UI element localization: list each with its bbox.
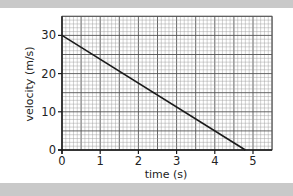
y-tick-label: 20 bbox=[41, 67, 56, 81]
x-tick-label: 1 bbox=[97, 154, 104, 168]
x-tick-label: 4 bbox=[211, 154, 218, 168]
x-tick-label: 2 bbox=[135, 154, 142, 168]
y-axis-ticks: 0102030 bbox=[41, 28, 62, 157]
velocity-time-chart: 012345 0102030 time (s) velocity (m/s) bbox=[0, 0, 293, 196]
x-tick-label: 0 bbox=[58, 154, 65, 168]
y-tick-label: 0 bbox=[49, 143, 56, 157]
y-axis-label: velocity (m/s) bbox=[23, 46, 36, 121]
x-tick-label: 3 bbox=[173, 154, 180, 168]
x-axis-label: time (s) bbox=[145, 168, 188, 181]
x-tick-label: 5 bbox=[249, 154, 256, 168]
graph-paper-grid bbox=[62, 16, 272, 150]
y-tick-label: 10 bbox=[41, 105, 56, 119]
x-axis-ticks: 012345 bbox=[58, 150, 256, 168]
y-tick-label: 30 bbox=[41, 28, 56, 42]
